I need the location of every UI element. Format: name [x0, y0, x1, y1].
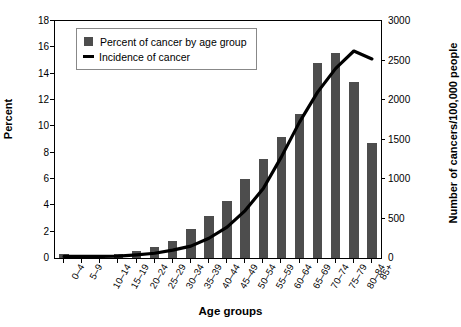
- x-axis-tick-mark: [154, 259, 155, 263]
- x-axis-tick-mark: [262, 259, 263, 263]
- x-axis-tick-mark: [317, 259, 318, 263]
- bar: [186, 229, 195, 258]
- legend-item-bars: Percent of cancer by age group: [84, 34, 247, 49]
- bar: [59, 254, 68, 258]
- bar: [277, 137, 286, 258]
- y-axis-right-tick-label: 3000: [388, 15, 422, 26]
- y-axis-left-tick-label: 8: [23, 146, 49, 157]
- legend-label-line: Incidence of cancer: [99, 51, 190, 63]
- bar: [259, 159, 268, 258]
- x-axis-tick-mark: [63, 259, 64, 263]
- y-axis-left-tick-label: 6: [23, 173, 49, 184]
- legend-item-line: Incidence of cancer: [84, 49, 247, 64]
- y-axis-left-tick-label: 0: [23, 252, 49, 263]
- y-axis-left-tick-label: 4: [23, 199, 49, 210]
- y-axis-left-tick-label: 18: [23, 15, 49, 26]
- x-axis-tick-mark: [244, 259, 245, 263]
- x-axis-tick-mark: [280, 259, 281, 263]
- y-axis-left-tick-label: 16: [23, 41, 49, 52]
- y-axis-right-tick-label: 500: [388, 212, 422, 223]
- y-axis-left-tick-label: 12: [23, 94, 49, 105]
- y-axis-left-title-text: Percent: [2, 98, 14, 138]
- legend-bar-swatch-icon: [84, 37, 93, 46]
- y-axis-left-tick-label: 2: [23, 225, 49, 236]
- bar: [77, 255, 86, 258]
- y-axis-right-tick-label: 0: [388, 252, 422, 263]
- bar: [331, 53, 340, 258]
- cancer-age-chart: Percent Number of cancers/100,000 people…: [0, 0, 461, 327]
- x-axis-tick-mark: [299, 259, 300, 263]
- bar: [114, 254, 123, 258]
- x-axis-tick-mark: [117, 259, 118, 263]
- bar: [204, 216, 213, 258]
- x-axis-tick-mark: [371, 259, 372, 263]
- bar: [367, 143, 376, 258]
- x-axis-tick-mark: [136, 259, 137, 263]
- x-axis-tick-mark: [190, 259, 191, 263]
- y-axis-right-tick-label: 1500: [388, 133, 422, 144]
- legend-line-swatch-icon: [83, 55, 94, 58]
- x-axis-tick-mark: [226, 259, 227, 263]
- x-axis-tick-mark: [208, 259, 209, 263]
- y-axis-left-tick-label: 14: [23, 67, 49, 78]
- bar: [295, 114, 304, 258]
- chart-legend: Percent of cancer by age group Incidence…: [76, 28, 257, 70]
- y-axis-right-title-text: Number of cancers/100,000 people: [447, 43, 459, 224]
- y-axis-right-tick-label: 1000: [388, 173, 422, 184]
- bar: [349, 82, 358, 258]
- y-axis-right-title: Number of cancers/100,000 people: [445, 8, 461, 258]
- x-axis-tick-mark: [335, 259, 336, 263]
- bar: [96, 255, 105, 258]
- bar: [150, 247, 159, 258]
- bar: [313, 63, 322, 258]
- bar: [240, 179, 249, 258]
- x-axis-tick-label: 0–4: [69, 262, 86, 281]
- y-axis-right-tick-label: 2500: [388, 54, 422, 65]
- bar: [222, 201, 231, 258]
- y-axis-left-title: Percent: [0, 0, 16, 237]
- bar: [168, 241, 177, 258]
- x-axis-tick-mark: [172, 259, 173, 263]
- x-axis-tick-mark: [81, 259, 82, 263]
- legend-label-bars: Percent of cancer by age group: [100, 36, 247, 48]
- x-axis-tick-mark: [99, 259, 100, 263]
- bar: [132, 251, 141, 258]
- x-axis-tick-mark: [353, 259, 354, 263]
- y-axis-left-tick-label: 10: [23, 120, 49, 131]
- x-axis-tick-label: 5–9: [87, 262, 104, 281]
- y-axis-right-tick-label: 2000: [388, 94, 422, 105]
- incidence-line-path: [64, 51, 372, 256]
- x-axis-title: Age groups: [0, 305, 461, 317]
